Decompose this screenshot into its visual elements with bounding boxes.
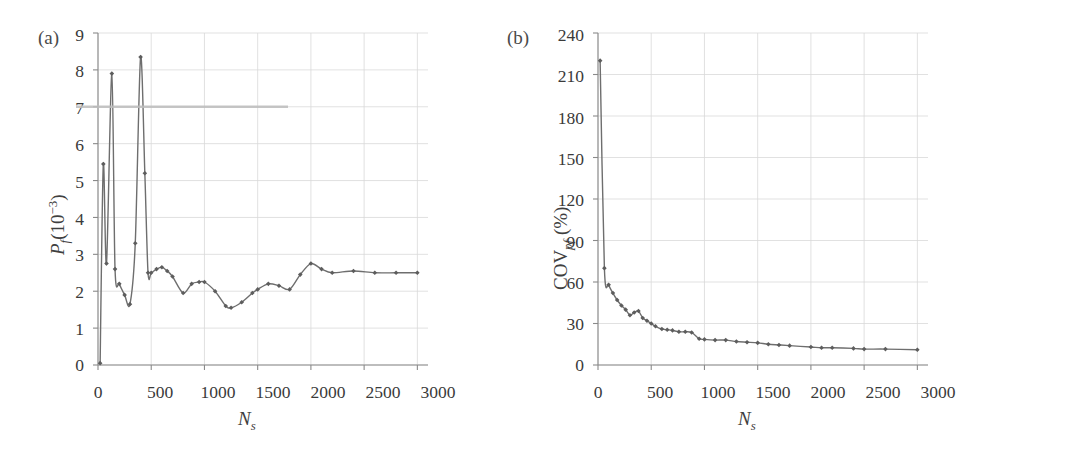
panel-a-data-point <box>330 270 335 275</box>
panel-a-plot <box>0 0 542 449</box>
panel-b-data-point <box>915 347 920 352</box>
panel-a-data-point <box>351 269 356 274</box>
panel-a: (a) 9 8 7 6 5 4 3 2 1 0 0 500 1000 1500 … <box>0 0 542 449</box>
panel-b-data-point <box>683 330 688 335</box>
panel-b-data-point <box>702 337 707 342</box>
panel-b-data-point <box>851 346 856 351</box>
panel-b-gridlines <box>598 33 928 365</box>
panel-b-data-point <box>745 340 750 345</box>
panel-b: (b) 240 210 180 150 120 90 60 30 0 0 500… <box>542 0 1084 449</box>
panel-b-data-point <box>723 338 728 343</box>
panel-a-data-point <box>229 306 234 311</box>
panel-a-data-point <box>415 270 420 275</box>
panel-a-data-point <box>372 270 377 275</box>
panel-b-data-point <box>787 343 792 348</box>
panel-a-axes <box>93 33 428 370</box>
panel-b-data-point <box>830 345 835 350</box>
panel-b-data-point <box>660 327 665 332</box>
two-panel-figure: (a) 9 8 7 6 5 4 3 2 1 0 0 500 1000 1500 … <box>0 0 1084 449</box>
panel-b-series-markers <box>598 58 920 352</box>
panel-b-data-point <box>677 330 682 335</box>
panel-a-gridlines <box>98 33 428 365</box>
panel-b-data-point <box>862 347 867 352</box>
panel-a-data-point <box>138 55 143 60</box>
panel-b-data-point <box>766 342 771 347</box>
panel-a-data-point <box>277 283 282 288</box>
panel-a-data-point <box>110 71 115 76</box>
panel-b-data-point <box>755 341 760 346</box>
panel-b-data-point <box>665 327 670 332</box>
panel-a-data-point <box>104 261 109 266</box>
panel-b-data-point <box>883 347 888 352</box>
panel-b-data-point <box>819 345 824 350</box>
panel-a-data-point <box>266 282 271 287</box>
panel-a-data-point <box>394 270 399 275</box>
panel-b-data-point <box>713 338 718 343</box>
panel-a-data-point <box>160 265 165 270</box>
panel-b-data-point <box>734 339 739 344</box>
panel-a-data-point <box>113 267 118 272</box>
panel-b-data-point <box>777 343 782 348</box>
panel-b-tag: (b) <box>507 27 529 49</box>
panel-a-data-point <box>101 162 106 167</box>
panel-a-series-line <box>100 56 417 363</box>
panel-b-data-point <box>809 345 814 350</box>
panel-a-data-point <box>197 280 202 285</box>
panel-b-plot <box>542 0 1084 449</box>
panel-b-data-point <box>602 266 607 271</box>
panel-a-data-point <box>133 241 138 246</box>
panel-b-series-line <box>600 61 917 350</box>
panel-a-data-point <box>143 171 148 176</box>
panel-b-data-point <box>670 328 675 333</box>
